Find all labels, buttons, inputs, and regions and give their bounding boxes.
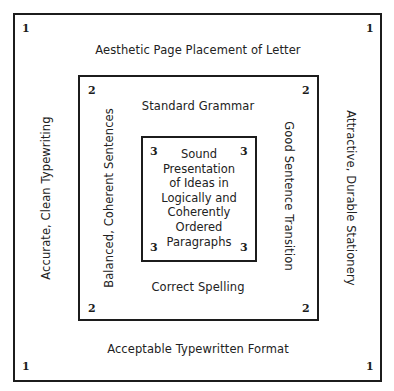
- level-marker-outer-top-left: 1: [22, 23, 30, 34]
- level-marker-outer-bottom-right: 1: [366, 361, 374, 372]
- level-marker-middle-bottom-left: 2: [88, 303, 96, 314]
- inner-line-1: Sound: [141, 147, 257, 162]
- outer-left-label: Accurate, Clean Typewriting: [40, 116, 53, 279]
- outer-bottom-label: Acceptable Typewritten Format: [107, 343, 289, 356]
- inner-line-4: Logically and: [141, 191, 257, 206]
- level-marker-outer-bottom-left: 1: [22, 361, 30, 372]
- middle-bottom-label: Correct Spelling: [151, 281, 244, 294]
- level-marker-middle-top-right: 2: [302, 85, 310, 96]
- outer-top-label: Aesthetic Page Placement of Letter: [95, 44, 300, 57]
- level-marker-middle-top-left: 2: [88, 85, 96, 96]
- inner-center-text: Sound Presentation of Ideas in Logically…: [141, 147, 257, 249]
- level-marker-outer-top-right: 1: [366, 23, 374, 34]
- inner-line-5: Coherently: [141, 205, 257, 220]
- inner-line-2: Presentation: [141, 162, 257, 177]
- middle-top-label: Standard Grammar: [142, 100, 254, 113]
- level-marker-middle-bottom-right: 2: [302, 303, 310, 314]
- middle-left-label: Balanced, Coherent Sentences: [103, 108, 116, 288]
- inner-line-3: of Ideas in: [141, 176, 257, 191]
- inner-line-6: Ordered: [141, 220, 257, 235]
- middle-right-label: Good Sentence Transition: [282, 121, 295, 271]
- inner-line-7: Paragraphs: [141, 235, 257, 250]
- outer-right-label: Attractive, Durable Stationery: [344, 110, 357, 285]
